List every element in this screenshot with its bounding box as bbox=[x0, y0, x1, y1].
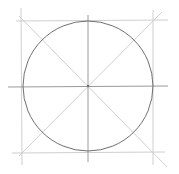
diagonal-line-anti bbox=[19, 12, 162, 156]
circle-construction-diagram bbox=[0, 0, 179, 174]
center-point bbox=[87, 85, 89, 87]
diagonal-line-main bbox=[19, 16, 167, 167]
